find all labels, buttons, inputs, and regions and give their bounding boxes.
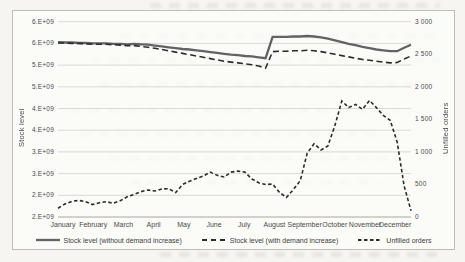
right-tick-label: 2 500 bbox=[415, 50, 449, 58]
month-label-march: March bbox=[114, 220, 133, 229]
month-label-december: December bbox=[379, 220, 411, 229]
month-label-january: January bbox=[51, 220, 76, 229]
series-line-2 bbox=[58, 101, 411, 211]
line-chart-plot bbox=[13, 11, 454, 249]
legend-label: Unfilled orders bbox=[386, 237, 431, 244]
chart-legend: Stock level (without demand increase)Sto… bbox=[13, 233, 454, 247]
left-tick-label: 3.E+09 bbox=[24, 170, 54, 178]
legend-swatch-short-dashed bbox=[358, 236, 382, 244]
scanned-page: { "chart_data": { "type": "line", "title… bbox=[0, 0, 465, 262]
month-label-august: August bbox=[263, 220, 285, 229]
chart-frame: 6.E+096.E+095.E+095.E+094.E+094.E+093.E+… bbox=[12, 10, 455, 250]
month-label-february: February bbox=[79, 220, 107, 229]
left-tick-label: 5.E+09 bbox=[24, 83, 54, 91]
month-label-july: July bbox=[238, 220, 250, 229]
right-tick-label: 3 000 bbox=[415, 18, 449, 26]
left-axis-title: Stock level bbox=[17, 73, 26, 183]
legend-item-0: Stock level (without demand increase) bbox=[36, 236, 182, 244]
legend-label: Stock level (without demand increase) bbox=[64, 237, 182, 244]
legend-swatch-solid bbox=[36, 236, 60, 244]
scan-bleed-artifact bbox=[150, 3, 440, 8]
series-line-0 bbox=[58, 36, 411, 58]
left-tick-label: 6.E+09 bbox=[24, 18, 54, 26]
left-tick-label: 2.E+09 bbox=[24, 191, 54, 199]
month-label-april: April bbox=[147, 220, 161, 229]
left-tick-label: 4.E+09 bbox=[24, 105, 54, 113]
month-label-may: May bbox=[177, 220, 190, 229]
legend-label: Stock level (with demand increase) bbox=[230, 237, 339, 244]
right-axis-title: Unfilled orders bbox=[441, 73, 450, 183]
left-tick-label: 3.E+09 bbox=[24, 148, 54, 156]
left-tick-label: 2.E+09 bbox=[24, 213, 54, 221]
left-tick-label: 6.E+09 bbox=[24, 39, 54, 47]
legend-swatch-dashed bbox=[202, 236, 226, 244]
right-tick-label: 0 bbox=[415, 213, 449, 221]
scan-bleed-artifact bbox=[160, 252, 440, 257]
month-label-november: November bbox=[349, 220, 381, 229]
left-tick-label: 5.E+09 bbox=[24, 61, 54, 69]
month-label-october: October bbox=[322, 220, 347, 229]
left-tick-label: 4.E+09 bbox=[24, 126, 54, 134]
month-label-september: September bbox=[287, 220, 321, 229]
legend-item-1: Stock level (with demand increase) bbox=[202, 236, 339, 244]
legend-item-2: Unfilled orders bbox=[358, 236, 431, 244]
month-label-june: June bbox=[206, 220, 221, 229]
